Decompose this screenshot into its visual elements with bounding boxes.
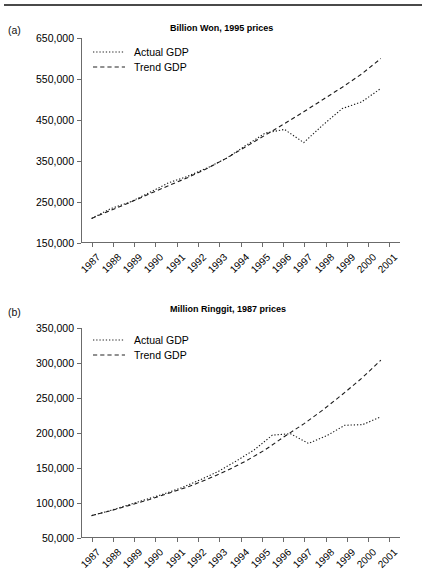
y-tick-label: 100,000 <box>36 497 74 509</box>
x-tick <box>326 538 327 542</box>
chart-title-b: Million Ringgit, 1987 prices <box>170 304 286 314</box>
x-tick <box>92 538 93 542</box>
header-rule <box>4 4 422 6</box>
x-tick <box>113 538 114 542</box>
x-tick <box>368 538 369 542</box>
legend-a: Actual GDP Trend GDP <box>93 44 189 74</box>
x-tick <box>155 538 156 542</box>
legend-item-trend-a: Trend GDP <box>93 59 189 74</box>
x-tick <box>241 538 242 542</box>
dotted-line-icon <box>93 336 125 344</box>
panel-label-a: (a) <box>8 24 21 36</box>
y-tick-label: 300,000 <box>36 357 74 369</box>
legend-item-actual-a: Actual GDP <box>93 44 189 59</box>
x-tick <box>219 538 220 542</box>
x-tick <box>155 243 156 247</box>
series-line-trend-gdp <box>92 360 381 515</box>
dashed-line-icon <box>93 351 125 359</box>
legend-b: Actual GDP Trend GDP <box>93 332 189 362</box>
x-tick <box>177 243 178 247</box>
x-tick <box>283 243 284 247</box>
y-tick-label: 150,000 <box>36 237 74 249</box>
x-tick <box>92 243 93 247</box>
series-line-trend-gdp <box>92 59 381 219</box>
y-tick-label: 200,000 <box>36 427 74 439</box>
x-tick <box>304 538 305 542</box>
legend-item-actual-b: Actual GDP <box>93 332 189 347</box>
panel-label-b: (b) <box>8 306 21 318</box>
x-tick <box>134 538 135 542</box>
y-tick-label: 450,000 <box>36 114 74 126</box>
x-tick <box>326 243 327 247</box>
x-tick <box>347 538 348 542</box>
y-tick-label: 350,000 <box>36 322 74 334</box>
x-tick <box>198 243 199 247</box>
dotted-line-icon <box>93 48 125 56</box>
x-tick <box>368 243 369 247</box>
x-tick <box>198 538 199 542</box>
legend-label-trend-a: Trend GDP <box>134 61 187 73</box>
x-tick <box>304 243 305 247</box>
y-tick-label: 150,000 <box>36 462 74 474</box>
x-tick <box>134 243 135 247</box>
x-tick <box>347 243 348 247</box>
x-tick <box>283 538 284 542</box>
dashed-line-icon <box>93 63 125 71</box>
x-tick <box>262 243 263 247</box>
y-tick <box>77 538 81 539</box>
y-tick-label: 50,000 <box>42 532 74 544</box>
x-tick <box>389 243 390 247</box>
y-tick-label: 550,000 <box>36 73 74 85</box>
x-tick <box>219 243 220 247</box>
chart-title-a: Billion Won, 1995 prices <box>170 23 273 33</box>
x-tick <box>262 538 263 542</box>
series-line-actual-gdp <box>92 88 381 218</box>
y-tick-label: 650,000 <box>36 32 74 44</box>
x-tick <box>241 243 242 247</box>
y-tick-label: 350,000 <box>36 155 74 167</box>
legend-label-actual-a: Actual GDP <box>134 46 189 58</box>
y-tick-label: 250,000 <box>36 392 74 404</box>
x-tick <box>113 243 114 247</box>
legend-item-trend-b: Trend GDP <box>93 347 189 362</box>
x-tick <box>389 538 390 542</box>
y-tick-label: 250,000 <box>36 196 74 208</box>
legend-label-trend-b: Trend GDP <box>134 349 187 361</box>
x-tick <box>177 538 178 542</box>
y-tick <box>77 243 81 244</box>
legend-label-actual-b: Actual GDP <box>134 334 189 346</box>
